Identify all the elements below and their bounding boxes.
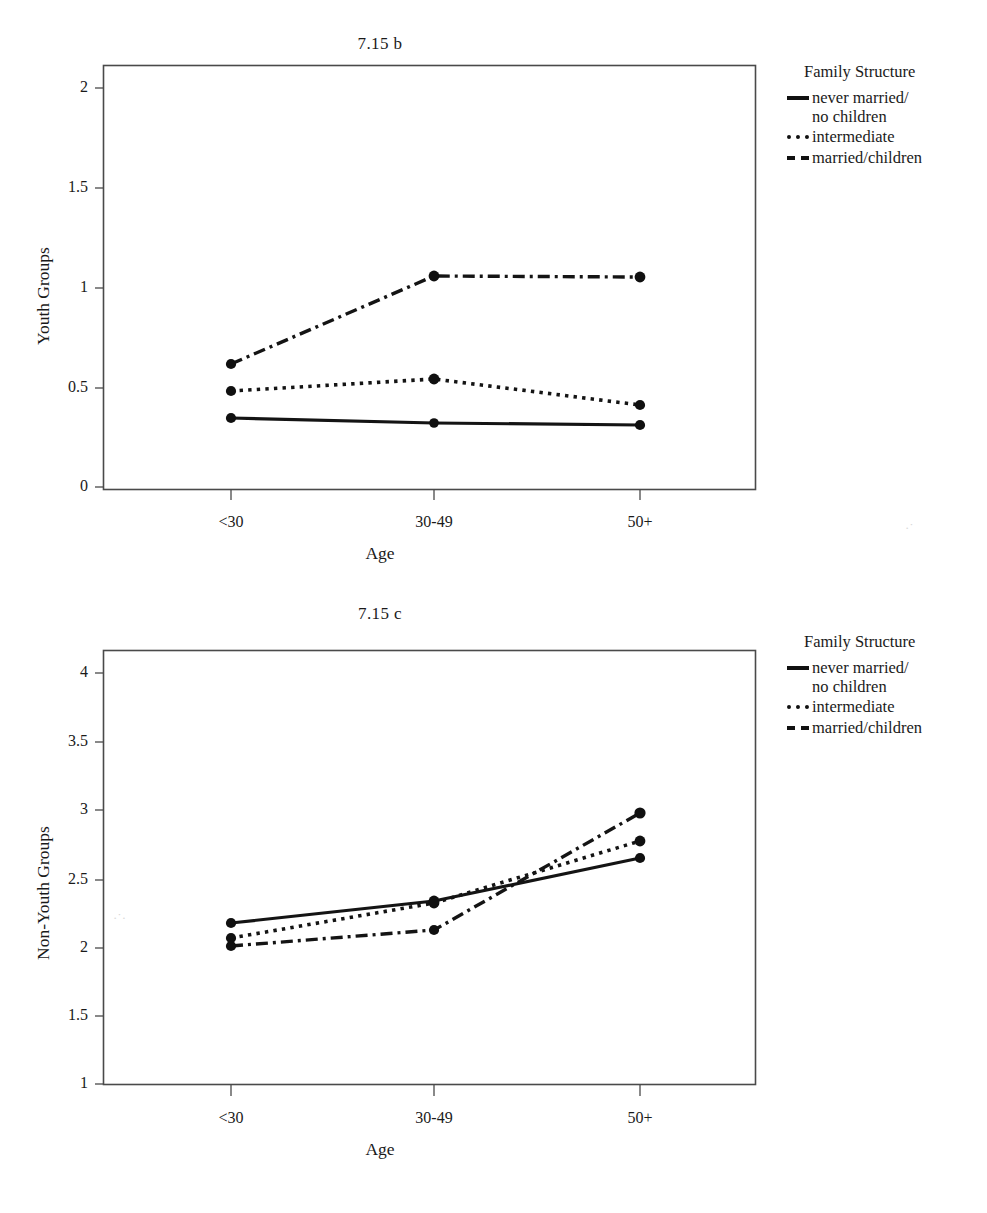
- legend-item-label: intermediate: [812, 127, 894, 146]
- x-axis-ticks-b: [231, 489, 640, 500]
- data-point: [429, 896, 440, 907]
- legend-key-solid-line-icon: [786, 658, 812, 677]
- data-point: [429, 271, 440, 282]
- legend-key-dotted-line-icon: [786, 127, 812, 146]
- data-point: [429, 418, 439, 428]
- x-axis-ticks-c: [231, 1084, 640, 1096]
- y-tick-label: 1.5: [40, 1006, 88, 1024]
- y-tick-label: 3.5: [40, 732, 88, 750]
- data-point: [226, 918, 236, 928]
- y-tick-label: 1: [40, 1074, 88, 1092]
- legend-item-label: never married/ no children: [812, 88, 909, 126]
- y-axis-label-c: Non-Youth Groups: [33, 826, 54, 960]
- legend-item-married-children[interactable]: married/children: [786, 148, 922, 168]
- y-tick-label: 0.5: [40, 378, 88, 396]
- series-markers-c: [226, 807, 646, 951]
- y-axis-ticks-b: [95, 88, 103, 487]
- y-tick-label: 2: [40, 78, 88, 96]
- legend-item-label: intermediate: [812, 697, 894, 716]
- x-tick-label: 30-49: [384, 513, 484, 531]
- x-tick-label: 50+: [590, 1109, 690, 1127]
- y-tick-label: 0: [40, 477, 88, 495]
- x-tick-label: <30: [181, 513, 281, 531]
- data-point: [226, 386, 236, 396]
- figure-canvas: 7.15 b: [0, 0, 987, 1213]
- legend-key-solid-line-icon: [786, 88, 812, 107]
- legend-c: Family Structure never married/ no child…: [786, 632, 922, 739]
- legend-key-dotted-line-icon: [786, 697, 812, 716]
- series-line-intermediate-c: [231, 841, 640, 938]
- legend-title: Family Structure: [804, 62, 922, 82]
- data-point: [226, 359, 236, 369]
- data-point: [635, 420, 645, 430]
- x-tick-label: 30-49: [384, 1109, 484, 1127]
- legend-b: Family Structure never married/ no child…: [786, 62, 922, 169]
- data-point: [635, 400, 645, 410]
- y-axis-label-b: Youth Groups: [33, 247, 54, 345]
- legend-item-intermediate[interactable]: intermediate: [786, 127, 922, 147]
- legend-item-intermediate[interactable]: intermediate: [786, 697, 922, 717]
- x-tick-label: 50+: [590, 513, 690, 531]
- data-point: [634, 807, 645, 818]
- legend-item-label: never married/ no children: [812, 658, 909, 696]
- legend-item-never-married[interactable]: never married/ no children: [786, 658, 922, 696]
- y-tick-label: 1.5: [40, 178, 88, 196]
- data-point: [226, 933, 236, 943]
- series-line-never-married-c: [231, 858, 640, 923]
- data-point: [635, 836, 646, 847]
- data-point: [635, 853, 645, 863]
- y-tick-label: 4: [40, 663, 88, 681]
- y-axis-ticks-c: [95, 673, 103, 1084]
- data-point: [635, 272, 646, 283]
- x-axis-label-c: Age: [0, 1139, 760, 1160]
- series-line-married-children-b: [231, 276, 640, 364]
- chart-panel-b: 7.15 b: [0, 0, 987, 600]
- chart-panel-c: 7.15 c: [0, 585, 987, 1213]
- legend-item-label: married/children: [812, 718, 922, 737]
- data-point: [226, 413, 236, 423]
- legend-key-dashdot-line-icon: [786, 718, 812, 737]
- data-point: [429, 925, 439, 935]
- legend-item-label: married/children: [812, 148, 922, 167]
- legend-item-never-married[interactable]: never married/ no children: [786, 88, 922, 126]
- series-markers-b: [226, 271, 645, 431]
- x-axis-label-b: Age: [0, 543, 760, 564]
- y-tick-label: 3: [40, 800, 88, 818]
- legend-key-dashdot-line-icon: [786, 148, 812, 167]
- legend-item-married-children[interactable]: married/children: [786, 718, 922, 738]
- legend-title: Family Structure: [804, 632, 922, 652]
- x-tick-label: <30: [181, 1109, 281, 1127]
- data-point: [429, 374, 440, 385]
- plot-frame-c: [104, 651, 756, 1085]
